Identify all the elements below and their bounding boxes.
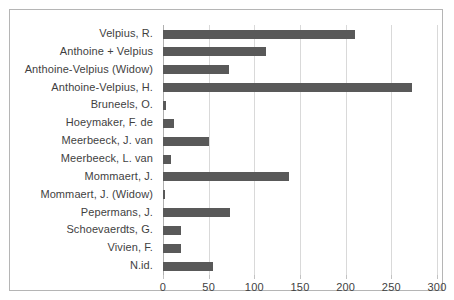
category-label: N.id. — [7, 257, 153, 275]
bar-row[interactable] — [163, 43, 437, 61]
plot-area: 050100150200250300 — [163, 25, 437, 275]
bar[interactable] — [163, 65, 229, 74]
tick-mark-100 — [254, 275, 255, 279]
category-axis-labels: Velpius, R.Anthoine + VelpiusAnthoine-Ve… — [10, 25, 158, 275]
category-label: Velpius, R. — [7, 25, 153, 43]
category-label: Bruneels, O. — [7, 96, 153, 114]
bar[interactable] — [163, 172, 289, 181]
bar[interactable] — [163, 137, 209, 146]
bar[interactable] — [163, 30, 355, 39]
bar[interactable] — [163, 101, 166, 110]
bar[interactable] — [163, 190, 165, 199]
tick-mark-0 — [163, 275, 164, 279]
bar-row[interactable] — [163, 168, 437, 186]
category-label: Pepermans, J. — [7, 204, 153, 222]
bar[interactable] — [163, 262, 213, 271]
tick-mark-50 — [209, 275, 210, 279]
category-label: Mommaert, J. (Widow) — [7, 186, 153, 204]
category-label: Vivien, F. — [7, 239, 153, 257]
bar-row[interactable] — [163, 25, 437, 43]
bar[interactable] — [163, 155, 171, 164]
category-label: Meerbeeck, L. van — [7, 150, 153, 168]
bar[interactable] — [163, 47, 266, 56]
bar-row[interactable] — [163, 257, 437, 275]
bar-row[interactable] — [163, 61, 437, 79]
category-label: Schoevaerdts, G. — [7, 221, 153, 239]
category-label: Meerbeeck, J. van — [7, 132, 153, 150]
category-label: Anthoine-Velpius (Widow) — [7, 61, 153, 79]
x-axis-tick-label: 0 — [143, 281, 183, 293]
bar-row[interactable] — [163, 150, 437, 168]
bar[interactable] — [163, 119, 174, 128]
chart-frame: Velpius, R.Anthoine + VelpiusAnthoine-Ve… — [9, 9, 443, 291]
gridline-300 — [437, 25, 438, 275]
bar[interactable] — [163, 244, 181, 253]
category-label: Hoeymaker, F. de — [7, 114, 153, 132]
tick-mark-200 — [346, 275, 347, 279]
x-axis-tick-label: 250 — [371, 281, 411, 293]
x-axis-tick-label: 100 — [234, 281, 274, 293]
tick-mark-150 — [300, 275, 301, 279]
bar[interactable] — [163, 208, 230, 217]
category-label: Anthoine-Velpius, H. — [7, 79, 153, 97]
category-label: Mommaert, J. — [7, 168, 153, 186]
bar-row[interactable] — [163, 186, 437, 204]
bar[interactable] — [163, 83, 412, 92]
x-axis-tick-label: 300 — [417, 281, 454, 293]
bar-row[interactable] — [163, 221, 437, 239]
tick-mark-300 — [437, 275, 438, 279]
bar-row[interactable] — [163, 114, 437, 132]
bar-row[interactable] — [163, 96, 437, 114]
bar[interactable] — [163, 226, 181, 235]
x-axis-tick-label: 150 — [280, 281, 320, 293]
x-axis-tick-label: 200 — [326, 281, 366, 293]
tick-mark-250 — [391, 275, 392, 279]
bar-row[interactable] — [163, 79, 437, 97]
bar-row[interactable] — [163, 239, 437, 257]
x-axis-tick-label: 50 — [189, 281, 229, 293]
bar-row[interactable] — [163, 132, 437, 150]
bar-row[interactable] — [163, 204, 437, 222]
category-label: Anthoine + Velpius — [7, 43, 153, 61]
